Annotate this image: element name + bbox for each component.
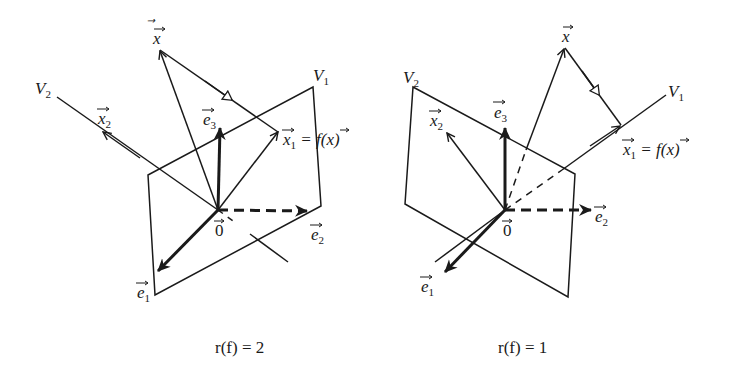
caption-rank-1: r(f) = 1 — [498, 338, 547, 357]
line-v2 — [57, 97, 218, 210]
label-x2: x2 — [429, 111, 443, 132]
vector-x-behind — [505, 150, 526, 210]
label-x1-eq: x1 = f(x) — [622, 140, 680, 161]
projection-arrow — [582, 71, 597, 92]
label-x: x — [561, 27, 570, 46]
vector-x — [160, 51, 218, 210]
projection-arrow — [205, 81, 229, 98]
label-origin: 0 — [503, 221, 512, 240]
label-e1: e1 — [137, 283, 150, 304]
line-v1 — [435, 210, 505, 262]
arrow-accent: ⃗ — [147, 19, 156, 23]
vector-x — [526, 49, 564, 150]
vector-e1 — [445, 210, 505, 272]
label-e3: e3 — [203, 110, 217, 131]
label-e2: e2 — [311, 225, 324, 246]
vector-e1 — [158, 210, 218, 271]
label-x2: x2 — [97, 109, 111, 130]
label-origin: 0 — [215, 221, 224, 240]
vector-e2 — [218, 210, 307, 211]
label-e2: e2 — [595, 207, 608, 228]
vector-x1 — [590, 126, 620, 146]
caption-rank-2: r(f) = 2 — [215, 338, 264, 357]
label-v2: V2 — [35, 79, 51, 100]
label-v1: V1 — [313, 66, 329, 87]
vector-x2 — [447, 133, 505, 210]
plane-v1 — [148, 87, 321, 295]
labels-rank-1: x V1 V2 x2 e3 x1 = f(x) 0 e2 e1 r(f) = 1 — [403, 25, 689, 357]
projection-diagrams: x ⃗ V1 V2 x2 e3 x1 = f(x) 0 e2 e1 r(f) =… — [0, 0, 736, 375]
label-e1: e1 — [421, 277, 434, 298]
line-v2-below — [250, 234, 288, 262]
diagram-rank-1 — [405, 48, 666, 297]
vector-e3 — [218, 128, 220, 210]
labels-rank-2: x ⃗ V1 V2 x2 e3 x1 = f(x) 0 e2 e1 r(f) =… — [35, 19, 349, 357]
label-x1-eq: x1 = f(x) — [282, 130, 340, 151]
vector-x1 — [218, 132, 278, 210]
label-v1: V1 — [668, 82, 684, 103]
label-v2: V2 — [403, 68, 419, 89]
vector-x2 — [103, 132, 140, 158]
line-v1-behind — [505, 170, 562, 210]
diagram-rank-2 — [57, 50, 321, 295]
label-e3: e3 — [494, 103, 508, 124]
label-x: x — [152, 29, 161, 48]
